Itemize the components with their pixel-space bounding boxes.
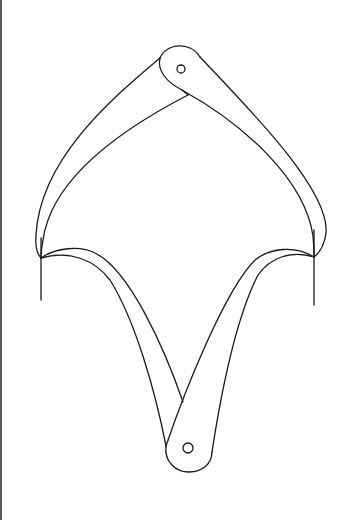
lower-pivot-hole [183, 443, 193, 453]
calipers-drawing [0, 0, 359, 520]
lower-left-arm [41, 248, 183, 446]
figure-page [0, 0, 359, 520]
upper-pivot-head [159, 46, 200, 95]
upper-left-arm [36, 58, 188, 258]
lower-right-arm [166, 249, 314, 452]
lower-pivot-head [166, 443, 212, 472]
upper-right-arm [182, 57, 326, 257]
upper-pivot-hole [177, 65, 185, 73]
